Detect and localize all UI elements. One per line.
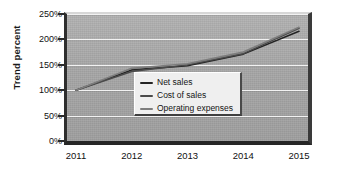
legend-label: Net sales <box>157 76 192 89</box>
legend-item: Net sales <box>140 76 236 89</box>
y-tick-label: 100% <box>18 85 62 95</box>
legend-swatch-icon <box>140 95 153 97</box>
y-tickmark <box>58 64 65 66</box>
legend-item: Cost of sales <box>140 89 236 102</box>
legend-label: Cost of sales <box>157 89 206 102</box>
x-tick-label: 2015 <box>276 150 322 161</box>
x-axis-tick-labels: 20112012201320142015 <box>0 150 338 170</box>
legend-item: Operating expenses <box>140 102 236 115</box>
trend-percent-line-chart: Trend percent 250%200%150%100%50%0% 2011… <box>0 0 338 176</box>
x-tick-label: 2013 <box>165 150 211 161</box>
legend-swatch-icon <box>140 108 153 110</box>
chart-legend: Net salesCost of salesOperating expenses <box>134 72 242 116</box>
y-tick-label: 200% <box>18 34 62 44</box>
y-tick-label: 50% <box>18 111 62 121</box>
y-tick-label: 0% <box>18 136 62 146</box>
y-tick-label: 150% <box>18 60 62 70</box>
legend-swatch-icon <box>140 82 153 84</box>
legend-label: Operating expenses <box>157 102 233 115</box>
y-tickmark <box>58 89 65 91</box>
x-tick-label: 2012 <box>109 150 155 161</box>
y-tickmark <box>58 13 65 15</box>
y-tickmark <box>58 38 65 40</box>
y-tickmark <box>58 115 65 117</box>
y-tick-label: 250% <box>18 9 62 19</box>
x-tick-label: 2011 <box>53 150 99 161</box>
x-tick-label: 2014 <box>220 150 266 161</box>
y-tickmark <box>58 140 65 142</box>
